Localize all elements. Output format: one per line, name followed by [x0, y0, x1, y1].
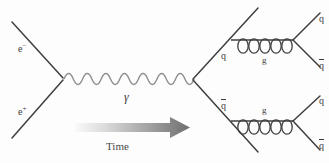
electron-label: e− — [18, 42, 26, 54]
outgoing-quark-line-2 — [293, 96, 320, 121]
overbar — [319, 59, 324, 60]
outgoing-antiquark-label-1: q — [319, 60, 324, 71]
overbar — [319, 139, 324, 140]
feynman-diagram-figure: e− e+ γ q q g g q q q q Time — [0, 0, 329, 163]
electron-charge: − — [22, 42, 26, 50]
intermediate-quark-label: q — [221, 50, 226, 61]
outgoing-antiquark-line-1 — [293, 40, 320, 67]
outgoing-quark-line-1 — [293, 13, 320, 40]
antiquark-line-lower — [193, 80, 258, 152]
positron-charge: + — [22, 105, 26, 113]
positron-label: e+ — [18, 105, 26, 117]
photon-label: γ — [124, 90, 129, 105]
time-arrow-icon — [75, 117, 190, 138]
time-axis-label: Time — [106, 140, 129, 152]
outgoing-antiquark-line-2 — [293, 121, 320, 150]
gluon-lower-label: g — [262, 105, 267, 115]
antiquark-symbol: q — [319, 140, 324, 151]
gluon-lower-coils — [238, 120, 292, 134]
outgoing-quark-label-1: q — [319, 13, 324, 24]
intermediate-antiquark-label: q — [221, 100, 226, 111]
diagram-canvas — [0, 0, 329, 163]
gluon-upper-label: g — [262, 55, 267, 65]
antiquark-symbol: q — [221, 100, 226, 111]
antiquark-symbol: q — [319, 60, 324, 71]
photon-propagator — [64, 74, 194, 85]
overbar — [221, 99, 226, 100]
outgoing-antiquark-label-2: q — [319, 140, 324, 151]
outgoing-quark-label-2: q — [319, 95, 324, 106]
gluon-upper-coils — [238, 39, 292, 53]
